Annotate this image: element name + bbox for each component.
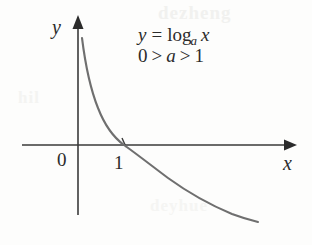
- y-axis-arrow-icon: [73, 15, 84, 29]
- x-axis-label: x: [283, 152, 292, 175]
- equation-lhs: y: [138, 24, 146, 45]
- condition-right-value: 1: [194, 45, 204, 66]
- origin-label: 0: [57, 149, 67, 171]
- y-axis-label: y: [52, 16, 61, 39]
- condition-variable: a: [166, 45, 176, 66]
- log-argument: x: [201, 24, 209, 45]
- log-function-name: log: [167, 24, 191, 45]
- x-tick-label-one: 1: [114, 152, 124, 174]
- math-figure: dezheng hil deyhue y=logax 0>a>1 y x 0 1: [0, 0, 312, 245]
- x-axis-arrow-icon: [284, 140, 297, 151]
- condition-relation-1: >: [152, 45, 163, 66]
- equation-line-2: 0>a>1: [138, 45, 204, 67]
- condition-left-value: 0: [138, 45, 148, 66]
- equals-sign: =: [151, 24, 162, 45]
- condition-relation-2: >: [180, 45, 191, 66]
